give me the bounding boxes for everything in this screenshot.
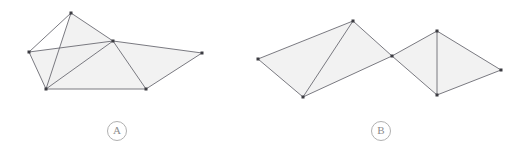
vertex-center xyxy=(112,40,115,43)
vertex-bottom-right xyxy=(436,94,439,97)
figure-b-group xyxy=(257,20,503,99)
vertex-top xyxy=(70,12,73,15)
vertex-far-left xyxy=(257,58,260,61)
vertex-peak-left xyxy=(352,20,355,23)
vertex-bottom-right xyxy=(145,88,148,91)
figure-b-label: B xyxy=(371,121,391,141)
vertex-bottom-left xyxy=(302,96,305,99)
figure-a-group xyxy=(28,12,204,91)
vertex-right xyxy=(201,52,204,55)
figure-a-label: A xyxy=(107,121,127,141)
figure-canvas: A B xyxy=(0,0,527,146)
face-right-quad xyxy=(392,31,501,95)
figure-a-faces xyxy=(29,13,202,89)
vertex-bottom-left xyxy=(45,88,48,91)
vertex-far-right xyxy=(500,69,503,72)
vertex-center xyxy=(391,55,394,58)
vertex-left xyxy=(28,51,31,54)
geometry-figures-svg xyxy=(0,0,527,146)
figure-b-faces xyxy=(258,21,501,97)
vertex-peak-right xyxy=(436,30,439,33)
